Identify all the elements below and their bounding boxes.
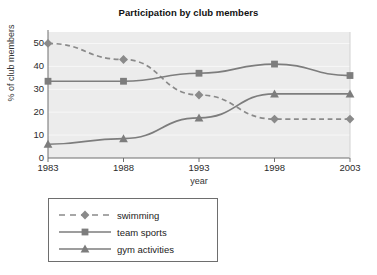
legend-marker-square-icon <box>57 225 113 239</box>
legend-item-team-sports[interactable]: team sports <box>57 223 167 241</box>
x-tick-label: 1983 <box>25 162 71 173</box>
x-tick-label: 2003 <box>327 162 373 173</box>
data-point-team-sports <box>196 70 203 77</box>
data-point-team-sports <box>120 78 127 85</box>
data-point-team-sports <box>347 72 354 79</box>
legend-marker-diamond-icon <box>57 208 113 222</box>
legend-point <box>81 211 90 220</box>
data-point-team-sports <box>45 78 52 85</box>
x-tick-label: 1993 <box>176 162 222 173</box>
chart-legend: swimmingteam sportsgym activities <box>48 198 218 262</box>
data-point-team-sports <box>271 61 278 68</box>
x-tick-label: 1988 <box>101 162 147 173</box>
legend-marker-triangle-icon <box>57 242 113 256</box>
legend-item-gym-activities[interactable]: gym activities <box>57 240 174 258</box>
legend-label: swimming <box>117 210 159 221</box>
legend-point <box>82 229 89 236</box>
line-chart: Participation by club members % of club … <box>0 0 377 275</box>
legend-label: team sports <box>117 227 167 238</box>
legend-item-swimming[interactable]: swimming <box>57 206 159 224</box>
legend-label: gym activities <box>117 244 174 255</box>
x-tick-label: 1998 <box>252 162 298 173</box>
